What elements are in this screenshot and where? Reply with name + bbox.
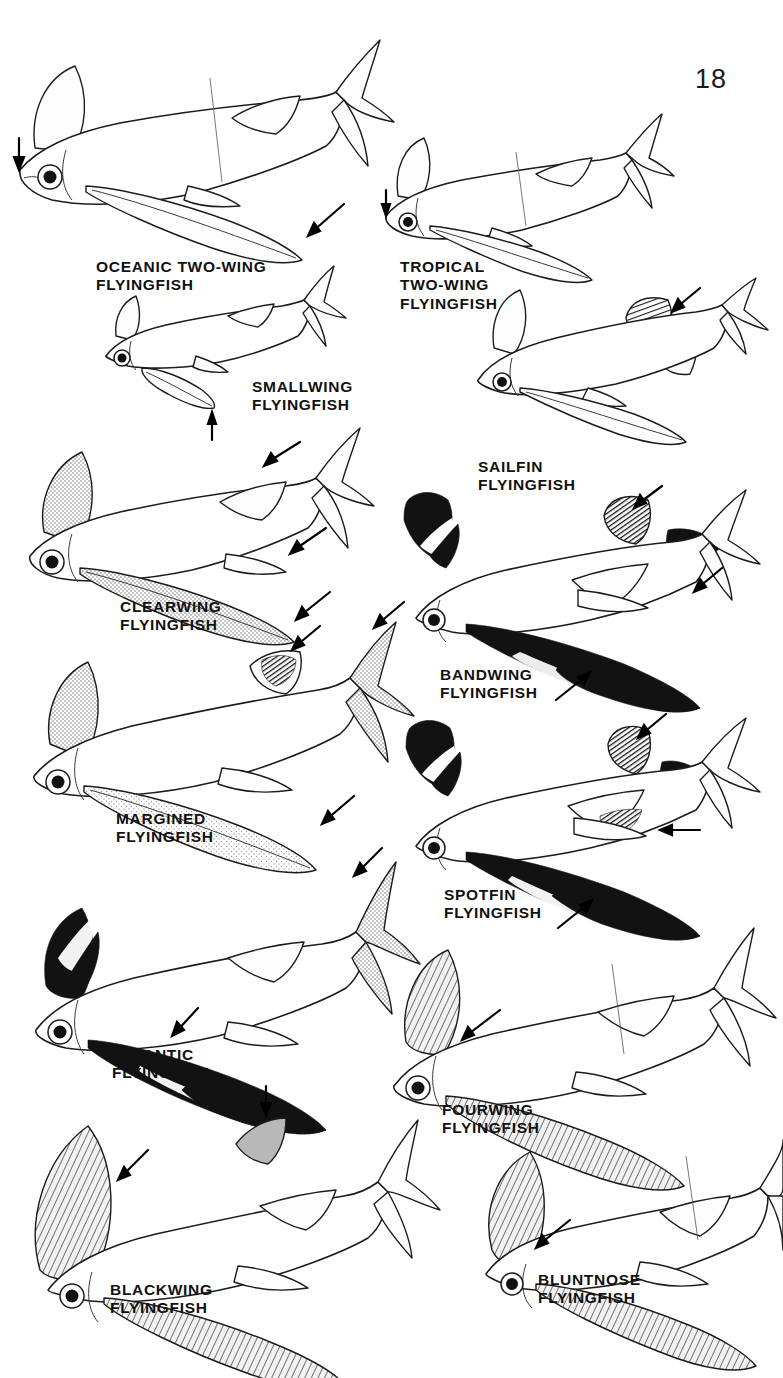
species-label-bluntnose: BLUNTNOSE FLYINGFISH xyxy=(538,1271,641,1308)
arrow-pelvic-fin xyxy=(290,528,326,554)
arrow-caudal-fin xyxy=(354,848,382,876)
arrow-pale-band xyxy=(558,900,592,928)
arrow-pelvic-fin xyxy=(462,1010,500,1040)
arrow-short-pectoral xyxy=(208,412,216,440)
arrow-pelvic-fin xyxy=(536,1220,570,1248)
arrow-dorsal-fin xyxy=(261,1086,271,1116)
species-label-tropical-two-wing: TROPICAL TWO-WING FLYINGFISH xyxy=(400,258,498,313)
species-label-oceanic-two-wing: OCEANIC TWO-WING FLYINGFISH xyxy=(96,258,266,295)
species-label-bandwing: BANDWING FLYINGFISH xyxy=(440,666,538,703)
species-label-blackwing: BLACKWING FLYINGFISH xyxy=(110,1281,213,1318)
arrow-snout xyxy=(14,138,24,170)
arrow-pelvic-blotch xyxy=(660,825,700,835)
arrow-dorsal-fin xyxy=(672,288,700,312)
species-label-smallwing: SMALLWING FLYINGFISH xyxy=(252,378,353,415)
fish-bluntnose xyxy=(486,1140,783,1370)
arrow-dorsal-fin xyxy=(264,442,300,466)
arrow-pelvic-fin xyxy=(118,1150,148,1180)
arrow-pale-band xyxy=(556,672,590,700)
arrow-snout xyxy=(382,190,390,216)
species-label-spotfin: SPOTFIN FLYINGFISH xyxy=(444,886,542,923)
fish-oceanic-two-wing xyxy=(14,40,394,263)
arrow-pectoral-margin xyxy=(322,796,354,824)
species-label-fourwing: FOURWING FLYINGFISH xyxy=(442,1101,540,1138)
species-label-clearwing: CLEARWING FLYINGFISH xyxy=(120,598,222,635)
arrow-dorsal-spot xyxy=(638,714,666,738)
fish-blackwing xyxy=(35,1086,440,1378)
fish-sailfin xyxy=(478,278,768,444)
species-label-atlantic: ATLANTIC FLYINGFISH xyxy=(112,1046,210,1083)
arrow-pale-stripe xyxy=(172,1008,198,1036)
flyingfish-artwork xyxy=(0,0,783,1378)
arrow-dorsal-spot xyxy=(292,626,320,650)
arrow-caudal-lobe xyxy=(694,568,722,592)
fish-fourwing xyxy=(394,928,776,1190)
species-label-sailfin: SAILFIN FLYINGFISH xyxy=(478,458,576,495)
species-label-margined: MARGINED FLYINGFISH xyxy=(116,810,214,847)
arrow-caudal-fin xyxy=(374,602,404,628)
illustration-plate: 18 OCEANIC TWO-WING FLYINGFISH TROPICAL … xyxy=(0,0,783,1378)
arrow-pectoral-tip xyxy=(308,204,344,236)
fish-atlantic xyxy=(36,848,420,1136)
arrow-dorsal-fin xyxy=(634,486,662,508)
page-number: 18 xyxy=(695,64,727,95)
arrow-pectoral-tip xyxy=(296,592,330,620)
fish-margined xyxy=(34,602,414,873)
